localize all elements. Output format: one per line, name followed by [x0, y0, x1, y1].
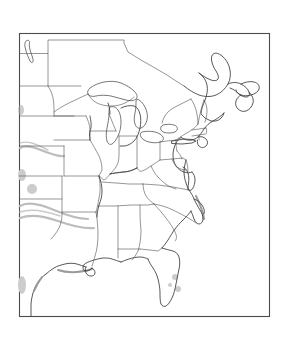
map-figure: Outline map of the eastern United States: [0, 0, 294, 355]
lake-ontario: [161, 124, 178, 133]
map-canvas: [0, 0, 294, 355]
map-frame: [20, 34, 270, 317]
